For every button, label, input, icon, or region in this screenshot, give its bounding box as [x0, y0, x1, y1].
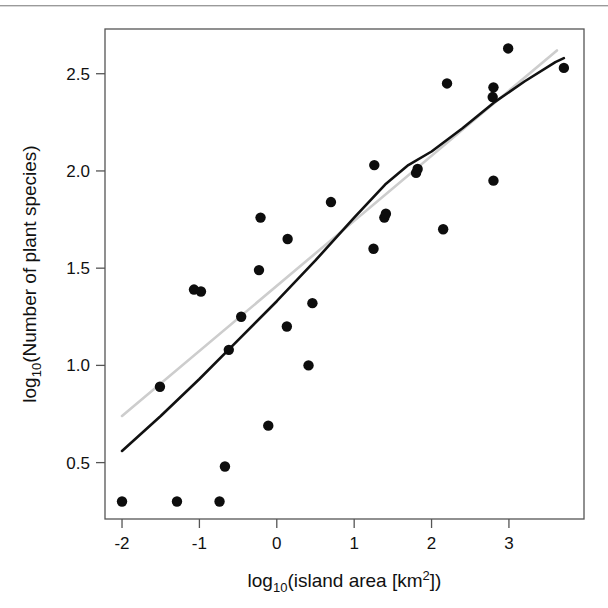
x-axis-tick-label: -2: [114, 534, 129, 553]
data-point: [412, 164, 422, 174]
data-point: [503, 43, 513, 53]
data-point: [307, 298, 317, 308]
plot-frame: [105, 29, 584, 519]
data-point: [559, 63, 569, 73]
data-point: [488, 175, 498, 185]
x-axis-tick-label: 0: [272, 534, 281, 553]
data-point: [255, 212, 265, 222]
x-axis-title: log10(island area [km2]): [248, 568, 442, 595]
data-point: [196, 286, 206, 296]
x-axis-tick-label: 1: [349, 534, 358, 553]
data-point: [381, 209, 391, 219]
x-axis-tick-label: -1: [192, 534, 207, 553]
data-point: [488, 82, 498, 92]
data-point: [155, 382, 165, 392]
data-point: [117, 496, 127, 506]
data-point: [214, 496, 224, 506]
y-axis-tick-label: 0.5: [66, 454, 90, 473]
scatter-plot-figure: 0.51.01.52.02.5-2-10123log10(Number of p…: [0, 0, 608, 608]
x-axis-tick-label: 2: [427, 534, 436, 553]
plot-svg: 0.51.01.52.02.5-2-10123log10(Number of p…: [0, 0, 608, 608]
data-point: [282, 321, 292, 331]
data-point: [282, 234, 292, 244]
y-axis-tick-label: 2.0: [66, 162, 90, 181]
data-point: [172, 496, 182, 506]
y-axis-tick-label: 1.5: [66, 259, 90, 278]
data-point: [442, 78, 452, 88]
y-axis-tick-label: 2.5: [66, 65, 90, 84]
data-point: [438, 224, 448, 234]
data-point: [487, 92, 497, 102]
data-point: [368, 244, 378, 254]
data-point: [236, 312, 246, 322]
figure-page: 0.51.01.52.02.5-2-10123log10(Number of p…: [0, 0, 608, 608]
data-point: [303, 360, 313, 370]
y-axis-title: log10(Number of plant species): [19, 145, 44, 402]
data-point: [220, 461, 230, 471]
data-point: [224, 345, 234, 355]
data-point: [263, 420, 273, 430]
data-point: [369, 160, 379, 170]
data-point: [326, 197, 336, 207]
data-point: [254, 265, 264, 275]
y-axis-tick-label: 1.0: [66, 356, 90, 375]
x-axis-tick-label: 3: [504, 534, 513, 553]
